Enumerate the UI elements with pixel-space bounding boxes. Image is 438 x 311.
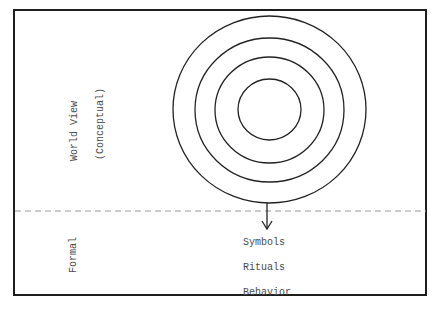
world-view-label: World View xyxy=(70,101,80,161)
formal-label: Formal xyxy=(69,237,79,273)
conceptual-label: (Conceptual) xyxy=(96,88,106,160)
symbols-item: Symbols xyxy=(243,238,285,248)
diagram-canvas xyxy=(0,0,438,311)
second-circle xyxy=(195,38,344,182)
outer-circle xyxy=(173,16,366,203)
behavior-item: Behavior xyxy=(243,288,291,298)
inner-circle xyxy=(238,79,301,140)
down-arrow-icon xyxy=(262,203,272,229)
rituals-item: Rituals xyxy=(243,263,285,273)
third-circle xyxy=(215,57,324,163)
